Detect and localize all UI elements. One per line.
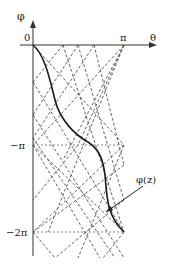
curve-label: φ(z) [136,174,156,185]
dashed-line [33,165,124,232]
origin-label: 0 [24,32,30,43]
theta-axis-label: θ [150,32,156,43]
dashed-line [33,145,100,258]
dashed-line [94,45,124,165]
phi-minus-2pi-label: −2π [6,227,28,238]
dashed-line [33,232,55,258]
theta-pi-label: π [120,32,127,43]
dashed-line [78,45,124,145]
dashed-line [63,45,124,232]
dashed-line [103,232,124,258]
dashed-line [33,145,78,200]
dashed-line [78,45,124,200]
phase-diagram: φ 0 π θ −π −2π φ(z) [0,0,169,276]
dashed-line [55,200,124,258]
dashed-reflection-lines [33,45,124,258]
phi-axis-label: φ [17,10,25,23]
dashed-line [48,45,124,232]
phi-minus-pi-label: −π [10,140,25,151]
phi-axis-arrowhead-icon [30,20,36,28]
